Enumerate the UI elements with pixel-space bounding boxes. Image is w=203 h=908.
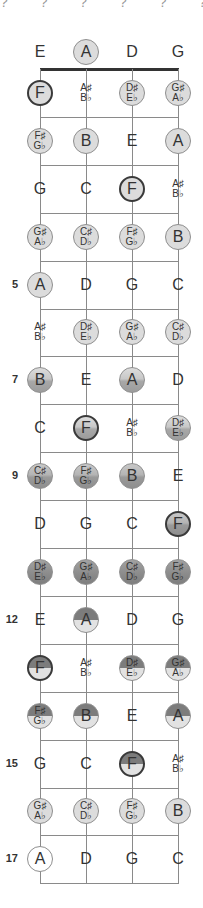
flat-name: B♭ [126,428,138,438]
note-label: G [165,39,191,65]
note-label: D [165,367,191,393]
note-name: C [80,181,92,197]
note-marker: A [27,272,53,298]
note-label: A♯B♭ [165,176,191,202]
note-marker: F♯G♭ [27,128,53,154]
fret-number-label: 15 [2,757,18,769]
note-name: E [35,612,46,628]
note-marker: D♯E♭ [73,319,99,345]
note-name: A [127,372,138,388]
note-marker: A [73,39,99,65]
flat-name: E♭ [172,428,184,438]
note-marker: F♯G♭ [119,224,145,250]
note-name: E [127,708,138,724]
enharmonic-note-pair: F♯G♭ [80,466,93,486]
note-marker: B [73,128,99,154]
note-name: A [35,851,46,867]
note-name: G [126,277,138,293]
note-label: C [165,846,191,872]
flat-name: G♭ [126,237,139,247]
flat-name: G♭ [34,141,47,151]
enharmonic-note-pair: G♯A♭ [80,562,93,582]
enharmonic-note-pair: F♯G♭ [172,562,185,582]
note-label: E [119,128,145,154]
cut-off-header-text: ? ? ? ? ? ? ? [0,0,203,6]
note-name: A [173,133,184,149]
note-label: D [27,511,53,537]
note-label: A♯B♭ [165,751,191,777]
flat-name: E♭ [126,668,138,678]
flat-name: A♭ [34,237,47,247]
note-name: C [172,851,184,867]
note-label: C [165,272,191,298]
note-name: C [126,516,138,532]
enharmonic-note-pair: D♯E♭ [172,418,184,438]
enharmonic-note-pair: D♯E♭ [34,562,46,582]
note-label: G [119,272,145,298]
flat-name: G♭ [172,572,185,582]
enharmonic-note-pair: A♯B♭ [80,83,92,103]
note-label: C [119,511,145,537]
flat-name: B♭ [172,764,184,774]
enharmonic-note-pair: C♯D♭ [172,322,184,342]
enharmonic-note-pair: G♯A♭ [126,322,139,342]
note-marker: C♯D♭ [165,319,191,345]
note-marker: D♯E♭ [27,559,53,585]
enharmonic-note-pair: G♯A♭ [172,83,185,103]
flat-name: G♭ [80,476,93,486]
note-marker: F [73,415,99,441]
note-label: A♯B♭ [119,415,145,441]
fret-line-13 [40,692,179,693]
note-label: E [119,703,145,729]
note-name: G [34,756,46,772]
note-name: C [80,756,92,772]
fret-line-14 [40,740,179,741]
note-name: C [34,420,46,436]
note-name: G [172,612,184,628]
enharmonic-note-pair: A♯B♭ [34,322,46,342]
note-name: B [127,468,138,484]
fret-number-label: 12 [2,613,18,625]
note-marker: G♯A♭ [73,559,99,585]
fret-number-label: 5 [2,278,18,290]
note-marker: F♯G♭ [119,798,145,824]
fret-line-11 [40,596,179,597]
note-marker: G♯A♭ [27,798,53,824]
fret-line-2 [40,165,179,166]
fret-line-1 [40,117,179,118]
note-name: F [35,660,45,676]
enharmonic-note-pair: A♯B♭ [172,179,184,199]
note-label: E [27,39,53,65]
note-name: E [81,372,92,388]
note-name: A [81,44,92,60]
note-name: B [81,708,92,724]
flat-name: B♭ [80,668,92,678]
note-marker: D♯E♭ [119,80,145,106]
flat-name: G♭ [126,811,139,821]
fret-line-9 [40,500,179,501]
note-name: F [127,181,137,197]
note-label: A♯B♭ [73,655,99,681]
note-name: D [80,277,92,293]
flat-name: D♭ [80,237,92,247]
note-label: C [27,415,53,441]
enharmonic-note-pair: A♯B♭ [126,418,138,438]
note-name: D [34,516,46,532]
fret-line-5 [40,309,179,310]
enharmonic-note-pair: D♯E♭ [80,322,92,342]
enharmonic-note-pair: A♯B♭ [80,658,92,678]
note-name: G [172,44,184,60]
fret-line-6 [40,356,179,357]
note-label: E [27,607,53,633]
note-name: B [173,229,184,245]
fret-line-15 [40,788,179,789]
flat-name: B♭ [34,332,46,342]
note-marker: B [27,367,53,393]
note-marker: A [165,703,191,729]
note-name: A [35,277,46,293]
note-name: F [173,516,183,532]
fret-number-label: 17 [2,852,18,864]
fret-line-16 [40,835,179,836]
note-marker: C♯D♭ [73,798,99,824]
enharmonic-note-pair: G♯A♭ [34,801,47,821]
